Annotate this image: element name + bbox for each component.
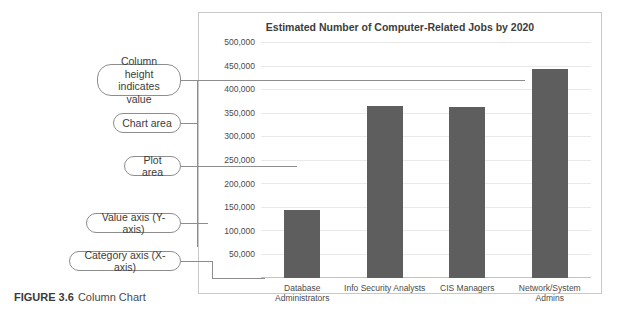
leader-category-axis-elbow-h [212, 278, 265, 279]
bar [449, 107, 485, 278]
leader-value-axis-pointer [198, 223, 208, 224]
bar [367, 106, 403, 278]
x-axis-category-label: Network/System Admins [502, 283, 598, 303]
figure-container: Column height indicates value Chart area… [0, 0, 620, 316]
y-axis-tick-label: 200,000 [224, 179, 255, 189]
leader-column-height [181, 80, 198, 81]
annotation-column-height-label: Column height indicates value [106, 55, 172, 105]
annotation-category-axis: Category axis (X-axis) [69, 251, 181, 271]
leader-plot-area [181, 166, 198, 167]
annotation-category-axis-label: Category axis (X-axis) [78, 249, 172, 274]
y-axis-tick-label: 150,000 [224, 202, 255, 212]
y-axis-tick-label: 500,000 [224, 37, 255, 47]
plot-area: 500,000450,000400,000350,000300,000250,0… [261, 43, 591, 278]
leader-value-axis [181, 223, 198, 224]
y-axis-tick-label: 100,000 [224, 226, 255, 236]
leader-category-axis-elbow-v [212, 261, 213, 279]
figure-caption-text: Column Chart [78, 291, 146, 303]
leader-column-height-pointer [198, 80, 525, 81]
annotation-column-height: Column height indicates value [97, 64, 181, 96]
annotation-chart-area: Chart area [113, 113, 181, 133]
bar-slot: Network/System Admins [509, 43, 592, 278]
y-axis-tick-label: 350,000 [224, 108, 255, 118]
annotation-value-axis-label: Value axis (Y-axis) [95, 211, 172, 236]
bar [532, 69, 568, 278]
chart-area: Estimated Number of Computer-Related Job… [198, 12, 602, 294]
bar-slot: Info Security Analysts [344, 43, 427, 278]
y-axis-tick-label: 250,000 [224, 155, 255, 165]
annotation-chart-area-label: Chart area [122, 117, 172, 130]
figure-caption-label: FIGURE 3.6 [14, 291, 74, 303]
leader-spine-top [197, 80, 198, 247]
bar [284, 210, 320, 278]
leader-plot-area-pointer [198, 166, 297, 167]
y-axis-tick-label: 50,000 [229, 249, 255, 259]
leader-category-axis [181, 261, 213, 262]
annotation-plot-area: Plot area [124, 156, 181, 176]
chart-title: Estimated Number of Computer-Related Job… [199, 21, 601, 33]
y-axis-tick-label: 400,000 [224, 84, 255, 94]
annotation-plot-area-label: Plot area [133, 154, 172, 179]
bar-slot: CIS Managers [426, 43, 509, 278]
annotation-value-axis: Value axis (Y-axis) [86, 213, 181, 233]
figure-caption: FIGURE 3.6Column Chart [14, 291, 146, 303]
leader-chart-area [181, 123, 198, 124]
bar-slot: Database Administrators [261, 43, 344, 278]
y-axis-tick-label: 450,000 [224, 61, 255, 71]
y-axis-tick-label: 300,000 [224, 131, 255, 141]
